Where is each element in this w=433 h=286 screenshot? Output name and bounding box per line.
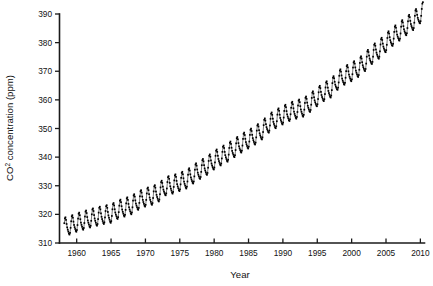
- data-point-marker: [141, 196, 143, 198]
- data-point-marker: [90, 220, 92, 222]
- data-point-marker: [289, 118, 291, 120]
- data-point-marker: [239, 149, 241, 151]
- data-point-marker: [385, 51, 387, 53]
- data-point-marker: [362, 66, 364, 68]
- data-point-marker: [334, 84, 336, 86]
- data-point-marker: [203, 164, 205, 166]
- data-point-marker: [373, 49, 375, 51]
- data-point-marker: [158, 201, 160, 203]
- data-point-marker: [407, 20, 409, 22]
- data-point-marker: [121, 209, 123, 211]
- co2-data-series: [63, 1, 423, 235]
- data-point-marker: [323, 100, 325, 102]
- data-point-marker: [115, 214, 117, 216]
- data-point-marker: [88, 224, 90, 226]
- data-point-marker: [218, 160, 220, 162]
- data-point-marker: [169, 185, 171, 187]
- data-point-marker: [393, 38, 395, 40]
- data-point-marker: [128, 206, 130, 208]
- data-point-marker: [341, 75, 343, 77]
- data-point-marker: [104, 217, 106, 219]
- data-point-marker: [308, 109, 310, 111]
- data-point-marker: [397, 37, 399, 39]
- data-point-marker: [176, 180, 178, 182]
- data-point-marker: [286, 110, 288, 112]
- y-tick-label: 310: [38, 238, 52, 248]
- data-point-marker: [336, 87, 338, 89]
- data-point-marker: [409, 20, 411, 22]
- data-point-marker: [65, 219, 67, 221]
- data-point-marker: [306, 98, 308, 100]
- data-point-marker: [96, 225, 98, 227]
- data-point-marker: [419, 22, 421, 24]
- data-point-marker: [328, 90, 330, 92]
- x-tick-label: 1980: [205, 248, 224, 258]
- data-point-marker: [388, 30, 390, 32]
- data-point-marker: [238, 145, 240, 147]
- data-point-marker: [314, 100, 316, 102]
- data-point-marker: [256, 130, 258, 132]
- data-point-marker: [268, 132, 270, 134]
- data-point-marker: [161, 182, 163, 184]
- data-point-marker: [260, 136, 262, 138]
- data-point-marker: [210, 160, 212, 162]
- data-point-marker: [312, 90, 314, 92]
- y-tick-label: 370: [38, 66, 52, 76]
- data-point-marker: [329, 94, 331, 96]
- data-point-marker: [400, 33, 402, 35]
- data-point-marker: [114, 208, 116, 210]
- data-point-marker: [266, 128, 268, 130]
- data-point-marker: [389, 36, 391, 38]
- data-point-marker: [255, 137, 257, 139]
- data-point-marker: [365, 68, 367, 70]
- data-point-marker: [252, 137, 254, 139]
- data-point-marker: [333, 77, 335, 79]
- data-point-marker: [404, 32, 406, 34]
- data-point-marker: [374, 43, 376, 45]
- data-point-marker: [131, 212, 133, 214]
- data-point-marker: [187, 174, 189, 176]
- data-point-marker: [299, 101, 301, 103]
- data-point-marker: [345, 77, 347, 79]
- data-point-marker: [193, 181, 195, 183]
- data-point-marker: [326, 83, 328, 85]
- data-point-marker: [153, 191, 155, 193]
- y-tick-label: 360: [38, 95, 52, 105]
- data-point-marker: [166, 188, 168, 190]
- data-point-marker: [234, 154, 236, 156]
- data-point-marker: [79, 214, 81, 216]
- data-point-marker: [385, 49, 387, 51]
- data-point-marker: [220, 165, 222, 167]
- data-point-marker: [238, 142, 240, 144]
- data-point-marker: [203, 160, 205, 162]
- data-point-marker: [259, 133, 261, 135]
- data-point-marker: [276, 120, 278, 122]
- data-point-marker: [170, 188, 172, 190]
- data-point-marker: [240, 152, 242, 154]
- data-point-marker: [277, 114, 279, 116]
- x-tick-label: 2010: [411, 248, 430, 258]
- data-point-marker: [275, 125, 277, 127]
- data-point-marker: [137, 209, 139, 211]
- data-point-marker: [297, 105, 299, 107]
- data-point-marker: [367, 49, 369, 51]
- data-point-marker: [411, 27, 413, 29]
- data-point-marker: [400, 26, 402, 28]
- data-point-marker: [361, 58, 363, 60]
- data-point-marker: [183, 177, 185, 179]
- data-point-marker: [177, 187, 179, 189]
- data-point-marker: [230, 141, 232, 143]
- x-tick-label: 1975: [171, 248, 190, 258]
- data-point-marker: [156, 194, 158, 196]
- data-point-marker: [301, 111, 303, 113]
- data-point-marker: [273, 123, 275, 125]
- data-point-marker: [352, 67, 354, 69]
- data-point-marker: [93, 210, 95, 212]
- data-point-marker: [325, 87, 327, 89]
- data-point-marker: [244, 134, 246, 136]
- data-point-marker: [173, 186, 175, 188]
- x-tick-label: 1970: [136, 248, 155, 258]
- data-point-marker: [189, 170, 191, 172]
- data-point-marker: [416, 10, 418, 12]
- data-point-marker: [198, 174, 200, 176]
